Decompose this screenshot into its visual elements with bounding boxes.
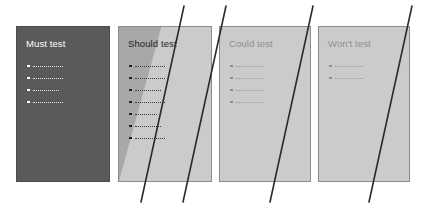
bullet-dot-icon [129, 137, 132, 140]
bullet-dot-icon [27, 89, 30, 92]
bullet-placeholder-line [33, 66, 63, 67]
list-item [129, 60, 207, 72]
bullet-dot-icon [329, 77, 332, 80]
bullet-dot-icon [129, 125, 132, 128]
bullet-dot-icon [230, 89, 233, 92]
panel-wont-test[interactable]: Won't test [318, 26, 410, 182]
list-item [329, 72, 405, 84]
list-item [329, 60, 405, 72]
list-item [230, 60, 306, 72]
list-item [129, 84, 207, 96]
list-item [27, 72, 105, 84]
bullet-placeholder-line [135, 102, 165, 103]
list-item [230, 72, 306, 84]
bullet-placeholder-line [236, 66, 264, 67]
bullet-placeholder-line [236, 102, 264, 103]
bullet-placeholder-line [135, 78, 165, 79]
list-item [129, 96, 207, 108]
bullet-list-must-test [27, 60, 105, 108]
bullet-placeholder-line [135, 138, 165, 139]
bullet-dot-icon [27, 65, 30, 68]
list-item [129, 120, 207, 132]
bullet-dot-icon [129, 65, 132, 68]
bullet-dot-icon [230, 77, 233, 80]
list-item [27, 96, 105, 108]
bullet-list-should-test [129, 60, 207, 144]
list-item [230, 96, 306, 108]
bullet-dot-icon [230, 65, 233, 68]
panel-should-test[interactable]: Should test [118, 26, 212, 182]
bullet-dot-icon [329, 65, 332, 68]
bullet-dot-icon [129, 113, 132, 116]
bullet-list-could-test [230, 60, 306, 108]
bullet-dot-icon [129, 89, 132, 92]
bullet-dot-icon [129, 101, 132, 104]
panel-title-wont-test: Won't test [328, 38, 371, 49]
list-item [27, 60, 105, 72]
bullet-list-wont-test [329, 60, 405, 84]
bullet-dot-icon [27, 101, 30, 104]
bullet-placeholder-line [135, 126, 161, 127]
bullet-dot-icon [230, 101, 233, 104]
bullet-placeholder-line [335, 66, 363, 67]
panel-could-test[interactable]: Could test [219, 26, 311, 182]
bullet-placeholder-line [135, 66, 165, 67]
bullet-dot-icon [129, 77, 132, 80]
bullet-placeholder-line [33, 102, 63, 103]
panel-title-should-test: Should test [128, 38, 177, 49]
list-item [129, 108, 207, 120]
panel-title-could-test: Could test [229, 38, 273, 49]
list-item [27, 84, 105, 96]
list-item [129, 72, 207, 84]
panel-title-must-test: Must test [26, 38, 65, 49]
panel-must-test[interactable]: Must test [16, 26, 110, 182]
bullet-placeholder-line [33, 78, 63, 79]
bullet-placeholder-line [135, 90, 161, 91]
bullet-placeholder-line [236, 90, 264, 91]
list-item [129, 132, 207, 144]
bullet-placeholder-line [135, 114, 157, 115]
bullet-placeholder-line [236, 78, 264, 79]
bullet-placeholder-line [33, 90, 59, 91]
bullet-placeholder-line [335, 78, 363, 79]
list-item [230, 84, 306, 96]
moscow-diagram-canvas: Must test Should test [0, 0, 427, 208]
bullet-dot-icon [27, 77, 30, 80]
